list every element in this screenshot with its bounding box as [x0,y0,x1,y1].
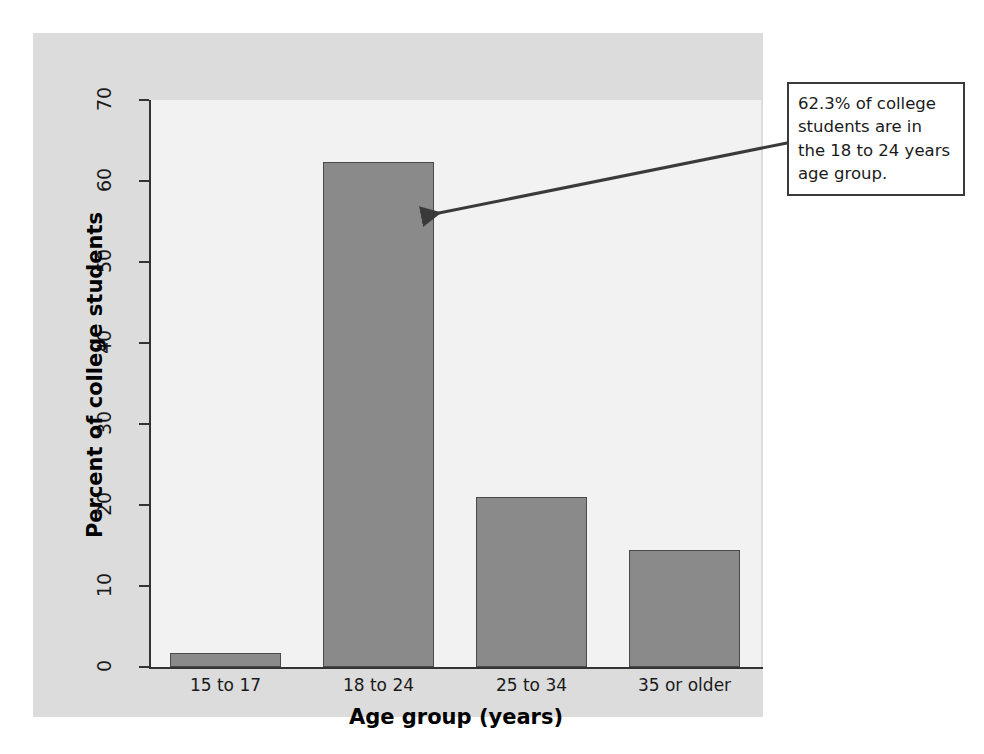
x-axis-line [149,667,763,669]
y-axis-tick [139,180,149,182]
y-axis-tick-label: 0 [93,637,115,695]
x-axis-title: Age group (years) [149,705,763,729]
y-axis-tick-label-wrap: 70 [75,88,133,112]
annotation-callout: 62.3% of college students are in the 18 … [787,82,965,196]
y-axis-line [149,100,151,669]
bar [476,497,586,667]
bar [170,653,280,667]
y-axis-tick [139,585,149,587]
y-axis-tick-label: 70 [93,70,115,128]
y-axis-tick [139,423,149,425]
bar [323,162,433,667]
x-axis-tick-label: 25 to 34 [455,675,608,695]
y-axis-title: Percent of college students [83,165,107,585]
x-axis-tick-label: 15 to 17 [149,675,302,695]
y-axis-tick [139,342,149,344]
x-axis-tick-label: 18 to 24 [302,675,455,695]
y-axis-tick [139,99,149,101]
y-axis-tick [139,261,149,263]
figure-panel: 010203040506070 Percent of college stude… [33,33,763,717]
y-axis-tick-label-wrap: 0 [75,655,133,679]
bar [629,550,739,667]
y-axis-tick [139,504,149,506]
x-axis-tick-label: 35 or older [608,675,761,695]
y-axis-tick [139,666,149,668]
